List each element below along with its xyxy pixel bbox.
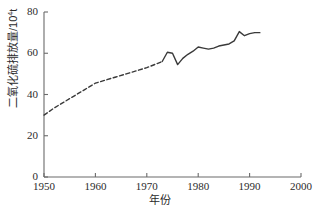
x-tick-label-1950: 1950	[22, 181, 66, 192]
x-tick-label-1990: 1990	[228, 181, 272, 192]
y-tick-label-20: 20	[8, 130, 38, 141]
y-axis-title: 二氧化硫排放量/104t	[7, 0, 20, 123]
series-line-estimated-so2-emissions	[44, 62, 162, 116]
chart-series	[44, 32, 260, 116]
series-line-measured-so2-emissions	[162, 32, 260, 65]
x-axis-title: 年份	[0, 195, 320, 206]
y-axis-title-unit: t	[7, 9, 19, 12]
x-tick-label-1980: 1980	[176, 181, 220, 192]
x-tick-label-1970: 1970	[125, 181, 169, 192]
chart-axes	[44, 12, 301, 177]
x-tick-label-2000: 2000	[279, 181, 320, 192]
y-axis-title-base: 二氧化硫排放量/10	[7, 16, 19, 108]
x-tick-label-1960: 1960	[73, 181, 117, 192]
y-axis-title-exponent: 4	[7, 12, 14, 16]
so2-emissions-line-chart: 020406080 195019601970198019902000 年份 二氧…	[0, 0, 320, 213]
